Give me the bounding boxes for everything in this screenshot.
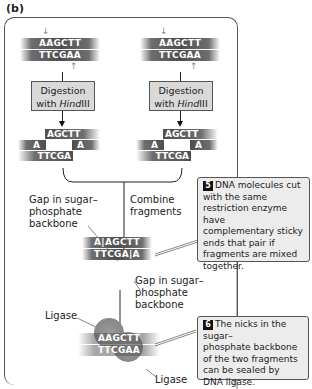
ligase-label-bottom: Ligase [155,374,187,386]
ligase-label-top: Ligase [45,310,77,322]
step-badge: 5 [203,181,213,191]
combine-fragments-label: Combinefragments [130,194,181,218]
ligated-strand-bottom: TTCGAA [78,345,160,356]
note-step-6: 6The nicks in the sugar– phosphate backb… [197,316,309,380]
gap-label-left: Gap in sugar–phosphatebackbone [29,194,98,230]
combined-strand-bottom: TTCGA|A [82,249,152,260]
ligated-strand-top: AAGCTT [78,333,160,344]
combined-strand-top: A|AGCTT [82,237,152,248]
note-step-5: 5DNA molecules cut with the same restric… [197,177,310,262]
step-badge: 6 [203,320,213,330]
gap-label-right: Gap in sugar–phosphatebackbone [135,275,204,311]
